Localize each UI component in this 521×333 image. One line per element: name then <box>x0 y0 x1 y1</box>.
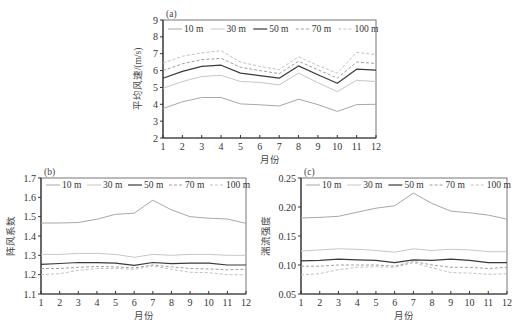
x-tick-label: 11 <box>483 297 493 308</box>
x-tick-label: 3 <box>199 141 204 152</box>
panel-label: (c) <box>304 167 315 178</box>
legend-label: 10 m <box>62 180 82 190</box>
legend-label: 30 m <box>363 180 383 190</box>
legend-label: 30 m <box>103 180 123 190</box>
y-tick-label: 0.10 <box>279 260 297 271</box>
legend-label: 100 m <box>487 180 512 190</box>
x-tick-label: 10 <box>332 141 342 152</box>
legend-label: 100 m <box>226 180 251 190</box>
series-line-70m <box>41 265 246 270</box>
x-tick-label: 5 <box>238 141 243 152</box>
x-tick-label: 10 <box>204 297 214 308</box>
chart-panel-b: 1.11.21.31.41.51.61.7123456789101112月份阵风… <box>5 167 251 321</box>
y-tick-label: 1.5 <box>24 211 37 222</box>
x-axis-label: 月份 <box>134 310 154 321</box>
x-tick-label: 7 <box>150 297 155 308</box>
x-tick-label: 12 <box>502 297 512 308</box>
x-tick-label: 8 <box>169 297 174 308</box>
y-tick-label: 4 <box>153 99 158 110</box>
x-tick-label: 5 <box>113 297 118 308</box>
x-tick-label: 12 <box>371 141 381 152</box>
series-line-30m <box>301 249 507 252</box>
y-axis-label: 阵风系数 <box>5 216 16 256</box>
series-line-30m <box>41 253 246 257</box>
series-line-10m <box>163 98 376 112</box>
y-tick-label: 1.2 <box>24 269 37 280</box>
y-tick-label: 0.20 <box>279 202 297 213</box>
x-tick-label: 4 <box>219 141 224 152</box>
x-tick-label: 11 <box>223 297 233 308</box>
x-tick-label: 10 <box>465 297 475 308</box>
legend-label: 70 m <box>185 180 205 190</box>
x-tick-label: 7 <box>277 141 282 152</box>
series-line-30m <box>163 73 376 92</box>
y-tick-label: 5 <box>153 82 158 93</box>
x-tick-label: 8 <box>296 141 301 152</box>
series-line-70m <box>301 262 507 269</box>
x-tick-label: 9 <box>448 297 453 308</box>
y-tick-label: 2 <box>153 133 158 144</box>
legend-label: 10 m <box>184 24 204 34</box>
x-tick-label: 3 <box>76 297 81 308</box>
x-tick-label: 1 <box>299 297 304 308</box>
y-tick-label: 0.05 <box>279 289 297 300</box>
x-tick-label: 5 <box>373 297 378 308</box>
y-tick-label: 9 <box>153 15 158 26</box>
legend-label: 50 m <box>144 180 164 190</box>
y-tick-label: 1.4 <box>24 231 37 242</box>
y-tick-label: 1.1 <box>24 289 37 300</box>
x-tick-label: 6 <box>132 297 137 308</box>
legend-label: 50 m <box>404 180 424 190</box>
x-tick-label: 11 <box>352 141 362 152</box>
x-tick-label: 4 <box>94 297 99 308</box>
series-line-100m <box>301 263 507 275</box>
x-axis-label: 月份 <box>260 154 280 165</box>
x-tick-label: 1 <box>39 297 44 308</box>
series-line-10m <box>41 200 246 223</box>
x-tick-label: 2 <box>180 141 185 152</box>
y-tick-label: 1.3 <box>24 250 37 261</box>
legend-label: 10 m <box>322 180 342 190</box>
x-axis-label: 月份 <box>394 310 414 321</box>
plot-frame <box>41 178 246 294</box>
x-tick-label: 6 <box>257 141 262 152</box>
y-tick-label: 3 <box>153 116 158 127</box>
chart-panel-c: 0.050.100.150.200.25123456789101112月份湍流强… <box>260 167 512 321</box>
y-tick-label: 8 <box>153 31 158 42</box>
legend-label: 30 m <box>227 24 247 34</box>
chart-panel-a: 23456789123456789101112月份平均风速/(m/s)(a)10… <box>132 9 381 165</box>
y-tick-label: 7 <box>153 48 158 59</box>
panel-label: (b) <box>44 167 55 178</box>
y-tick-label: 6 <box>153 65 158 76</box>
figure-canvas: 23456789123456789101112月份平均风速/(m/s)(a)10… <box>0 0 521 333</box>
legend-label: 70 m <box>312 24 332 34</box>
y-tick-label: 1.7 <box>24 173 37 184</box>
legend-label: 100 m <box>354 24 379 34</box>
series-line-10m <box>301 193 507 219</box>
y-tick-label: 0.25 <box>279 173 297 184</box>
series-line-100m <box>163 51 376 73</box>
y-axis-label: 湍流强度 <box>260 216 271 256</box>
legend-label: 50 m <box>269 24 289 34</box>
legend-label: 70 m <box>446 180 466 190</box>
x-tick-label: 7 <box>411 297 416 308</box>
y-axis-label: 平均风速/(m/s) <box>132 48 144 111</box>
x-tick-label: 4 <box>355 297 360 308</box>
x-tick-label: 6 <box>392 297 397 308</box>
y-tick-label: 1.6 <box>24 192 37 203</box>
series-line-50m <box>41 263 246 266</box>
plot-frame <box>301 178 507 294</box>
x-tick-label: 1 <box>161 141 166 152</box>
x-tick-label: 12 <box>241 297 251 308</box>
x-tick-label: 9 <box>188 297 193 308</box>
x-tick-label: 8 <box>430 297 435 308</box>
panel-label: (a) <box>166 9 177 20</box>
y-tick-label: 0.15 <box>279 231 297 242</box>
x-tick-label: 2 <box>57 297 62 308</box>
series-line-50m <box>301 259 507 263</box>
x-tick-label: 9 <box>315 141 320 152</box>
x-tick-label: 3 <box>336 297 341 308</box>
x-tick-label: 2 <box>317 297 322 308</box>
